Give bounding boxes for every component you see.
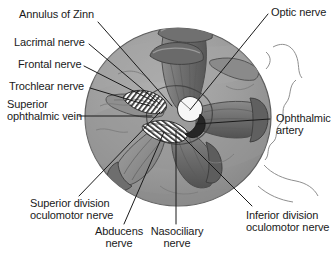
- label-superior-division-oculomotor-nerve: Superior division oculomotor nerve: [30, 198, 113, 221]
- label-frontal-nerve-line1: Frontal nerve: [18, 59, 82, 71]
- label-ophthalmic-artery-line1: Ophthalmic: [276, 113, 331, 125]
- label-abducens-nerve-line2: nerve: [95, 238, 143, 250]
- label-ophthalmic-artery: Ophthalmic artery: [276, 113, 331, 136]
- figure-canvas: Annulus of Zinn Lacrimal nerve Frontal n…: [0, 0, 335, 254]
- label-superior-division-line2: oculomotor nerve: [30, 210, 113, 222]
- label-nasociliary-nerve: Nasociliary nerve: [151, 226, 204, 249]
- label-ophthalmic-artery-line2: artery: [276, 125, 331, 137]
- label-optic-nerve: Optic nerve: [271, 7, 326, 19]
- label-superior-division-line1: Superior division: [30, 198, 113, 210]
- label-inferior-division-line1: Inferior division: [246, 210, 329, 222]
- label-optic-nerve-line1: Optic nerve: [271, 7, 326, 19]
- label-lacrimal-nerve-line1: Lacrimal nerve: [14, 37, 85, 49]
- label-frontal-nerve: Frontal nerve: [18, 59, 82, 71]
- label-superior-ophthalmic-vein: Superior ophthalmic vein: [7, 99, 82, 122]
- label-inferior-division-oculomotor-nerve: Inferior division oculomotor nerve: [246, 210, 329, 233]
- label-abducens-nerve-line1: Abducens: [95, 226, 143, 238]
- label-inferior-division-line2: oculomotor nerve: [246, 222, 329, 234]
- label-annulus-of-zinn: Annulus of Zinn: [19, 9, 94, 21]
- label-abducens-nerve: Abducens nerve: [95, 226, 143, 249]
- label-superior-ophthalmic-vein-line1: Superior: [7, 99, 82, 111]
- label-nasociliary-nerve-line2: nerve: [151, 238, 204, 250]
- label-trochlear-nerve-line1: Trochlear nerve: [9, 81, 84, 93]
- label-lacrimal-nerve: Lacrimal nerve: [14, 37, 85, 49]
- label-trochlear-nerve: Trochlear nerve: [9, 81, 84, 93]
- label-superior-ophthalmic-vein-line2: ophthalmic vein: [7, 111, 82, 123]
- label-nasociliary-nerve-line1: Nasociliary: [151, 226, 204, 238]
- label-annulus-of-zinn-line1: Annulus of Zinn: [19, 9, 94, 21]
